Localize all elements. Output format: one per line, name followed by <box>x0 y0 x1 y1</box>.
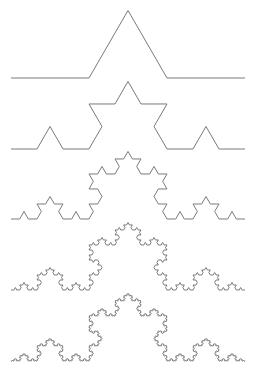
koch-curve-iteration-1 <box>11 10 245 78</box>
koch-curve-iteration-4 <box>11 222 245 290</box>
koch-curve-iteration-3 <box>11 151 245 219</box>
koch-curve-iteration-2 <box>11 81 245 149</box>
koch-curves-group <box>11 10 245 361</box>
koch-curve-iteration-5 <box>11 293 245 361</box>
koch-curve-canvas <box>0 0 255 378</box>
koch-curve-diagram <box>0 0 255 378</box>
